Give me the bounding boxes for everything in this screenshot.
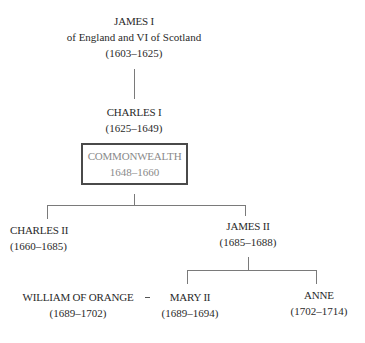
node-dates: (1689–1702) xyxy=(18,305,138,321)
node-commonwealth: COMMONWEALTH 1648–1660 xyxy=(83,148,186,180)
node-charles-i: CHARLES I (1625–1649) xyxy=(84,104,184,136)
connector-to-mary2 xyxy=(187,270,188,284)
node-name: CHARLES I xyxy=(84,104,184,120)
node-william-of-orange: WILLIAM OF ORANGE (1689–1702) xyxy=(18,289,138,321)
node-dates: (1689–1694) xyxy=(155,305,225,321)
node-name: ANNE xyxy=(287,287,351,303)
node-charles-ii: CHARLES II (1660–1685) xyxy=(10,222,90,254)
node-dates: 1648–1660 xyxy=(83,164,186,180)
node-james-ii: JAMES II (1685–1688) xyxy=(208,218,288,250)
node-name: WILLIAM OF ORANGE xyxy=(18,289,138,305)
node-dates: (1685–1688) xyxy=(208,234,288,250)
node-name: JAMES I xyxy=(34,13,234,29)
node-name: MARY II xyxy=(155,289,225,305)
node-dates: (1702–1714) xyxy=(287,303,351,319)
connector-commonwealth-stem xyxy=(134,194,135,205)
marriage-symbol xyxy=(145,297,150,298)
node-name: COMMONWEALTH xyxy=(83,148,186,164)
node-name: JAMES II xyxy=(208,218,288,234)
node-dates: (1660–1685) xyxy=(10,238,90,254)
connector-james2-stem xyxy=(248,257,249,270)
connector-james2-children-bar xyxy=(187,270,317,271)
node-dates: (1625–1649) xyxy=(84,120,184,136)
connector-james1-charles1 xyxy=(134,69,135,99)
node-subtitle: of England and VI of Scotland xyxy=(34,29,234,45)
connector-to-anne xyxy=(316,270,317,284)
node-anne: ANNE (1702–1714) xyxy=(287,287,351,319)
node-name: CHARLES II xyxy=(10,222,90,238)
commonwealth-box: COMMONWEALTH 1648–1660 xyxy=(81,143,188,185)
node-mary-ii: MARY II (1689–1694) xyxy=(155,289,225,321)
connector-children-bar xyxy=(47,205,246,206)
node-dates: (1603–1625) xyxy=(34,45,234,61)
connector-to-charles2 xyxy=(47,205,48,219)
connector-to-james2 xyxy=(245,205,246,216)
node-james-i: JAMES I of England and VI of Scotland (1… xyxy=(34,13,234,61)
